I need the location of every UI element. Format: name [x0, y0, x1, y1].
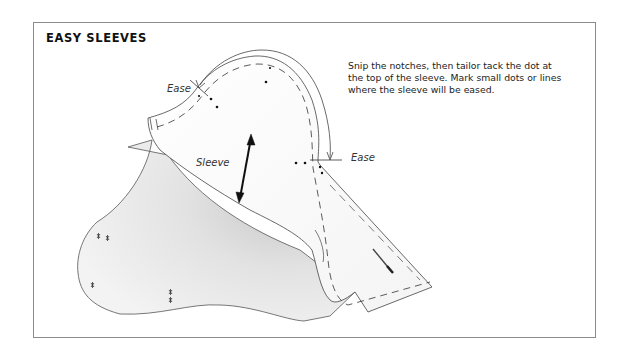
- ease-label-left: Ease: [167, 83, 191, 94]
- ease-label-right: Ease: [351, 152, 375, 163]
- sleeve-illustration: [0, 0, 630, 354]
- sleeve-label: Sleeve: [196, 157, 230, 168]
